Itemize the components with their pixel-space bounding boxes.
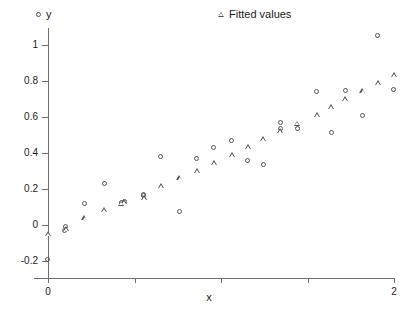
- data-point-fitted: [391, 72, 397, 77]
- data-point-y: [211, 145, 216, 150]
- x-axis-tick: [135, 278, 136, 283]
- plot-area: -0.200.20.40.60.81 02: [0, 0, 418, 313]
- circle-marker-icon: [82, 201, 87, 206]
- triangle-marker-icon: [314, 112, 320, 117]
- data-point-fitted: [294, 121, 300, 126]
- data-point-y: [329, 130, 334, 135]
- x-axis-tick: [221, 278, 222, 283]
- y-axis-tick: [42, 225, 48, 226]
- data-point-y: [177, 209, 182, 214]
- circle-marker-icon: [102, 181, 107, 186]
- data-point-y: [314, 89, 319, 94]
- data-point-fitted: [121, 199, 127, 204]
- data-point-fitted: [229, 152, 235, 157]
- circle-marker-icon: [177, 209, 182, 214]
- triangle-marker-icon: [177, 175, 183, 180]
- x-axis-tick: [308, 278, 309, 283]
- triangle-marker-icon: [391, 72, 397, 77]
- circle-marker-icon: [314, 89, 319, 94]
- circle-marker-icon: [391, 87, 396, 92]
- data-point-y: [360, 113, 365, 118]
- y-axis-tick: [42, 117, 48, 118]
- data-point-fitted: [328, 104, 334, 109]
- y-axis-line: [48, 28, 49, 278]
- triangle-marker-icon: [360, 88, 366, 93]
- data-point-fitted: [375, 80, 381, 85]
- y-axis-tick-label: 0: [0, 220, 38, 230]
- data-point-fitted: [314, 112, 320, 117]
- triangle-marker-icon: [211, 160, 217, 165]
- data-point-fitted: [245, 144, 251, 149]
- triangle-marker-icon: [260, 136, 266, 141]
- data-point-y: [295, 126, 300, 131]
- triangle-marker-icon: [343, 96, 349, 101]
- data-point-fitted: [360, 88, 366, 93]
- circle-marker-icon: [343, 88, 348, 93]
- data-point-y: [391, 87, 396, 92]
- x-axis-tick: [48, 278, 49, 283]
- data-point-fitted: [177, 175, 183, 180]
- y-axis-tick-label: 0.8: [0, 76, 38, 86]
- y-axis-tick: [42, 153, 48, 154]
- x-axis-line: [34, 278, 394, 279]
- triangle-marker-icon: [121, 199, 127, 204]
- data-point-fitted: [194, 168, 200, 173]
- y-axis-tick: [42, 45, 48, 46]
- data-point-y: [102, 181, 107, 186]
- circle-marker-icon: [375, 33, 380, 38]
- circle-marker-icon: [158, 154, 163, 159]
- triangle-marker-icon: [277, 128, 283, 133]
- circle-marker-icon: [194, 156, 199, 161]
- data-point-fitted: [158, 183, 164, 188]
- data-point-fitted: [82, 215, 88, 220]
- triangle-marker-icon: [45, 231, 51, 236]
- y-axis-tick-label: -0.2: [0, 256, 38, 266]
- triangle-marker-icon: [82, 215, 88, 220]
- data-point-y: [82, 201, 87, 206]
- triangle-marker-icon: [194, 168, 200, 173]
- data-point-y: [375, 33, 380, 38]
- data-point-y: [158, 154, 163, 159]
- data-point-fitted: [211, 160, 217, 165]
- triangle-marker-icon: [375, 80, 381, 85]
- data-point-y: [245, 158, 250, 163]
- circle-marker-icon: [329, 130, 334, 135]
- triangle-marker-icon: [141, 195, 147, 200]
- circle-marker-icon: [45, 257, 50, 262]
- y-axis-tick-label: 0.4: [0, 148, 38, 158]
- circle-marker-icon: [229, 138, 234, 143]
- data-point-fitted: [260, 136, 266, 141]
- data-point-fitted: [63, 226, 69, 231]
- triangle-marker-icon: [328, 104, 334, 109]
- data-point-y: [278, 120, 283, 125]
- triangle-marker-icon: [63, 226, 69, 231]
- data-point-y: [343, 88, 348, 93]
- data-point-fitted: [141, 195, 147, 200]
- y-axis-tick-label: 0.2: [0, 184, 38, 194]
- data-point-fitted: [277, 128, 283, 133]
- y-axis-tick: [42, 189, 48, 190]
- x-axis-tick: [394, 278, 395, 283]
- data-point-y: [194, 156, 199, 161]
- scatter-plot-figure: y Fitted values -0.200.20.40.60.81 02 x: [0, 0, 418, 313]
- x-axis-title: x: [0, 291, 418, 303]
- data-point-y: [45, 257, 50, 262]
- data-point-fitted: [45, 231, 51, 236]
- data-point-y: [261, 162, 266, 167]
- triangle-marker-icon: [229, 152, 235, 157]
- data-point-fitted: [343, 96, 349, 101]
- triangle-marker-icon: [294, 121, 300, 126]
- circle-marker-icon: [295, 126, 300, 131]
- y-axis-tick-label: 0.6: [0, 112, 38, 122]
- triangle-marker-icon: [158, 183, 164, 188]
- circle-marker-icon: [245, 158, 250, 163]
- circle-marker-icon: [360, 113, 365, 118]
- data-point-fitted: [102, 207, 108, 212]
- triangle-marker-icon: [102, 207, 108, 212]
- circle-marker-icon: [261, 162, 266, 167]
- circle-marker-icon: [278, 120, 283, 125]
- triangle-marker-icon: [245, 144, 251, 149]
- data-point-y: [229, 138, 234, 143]
- y-axis-tick-label: 1: [0, 40, 38, 50]
- y-axis-tick: [42, 81, 48, 82]
